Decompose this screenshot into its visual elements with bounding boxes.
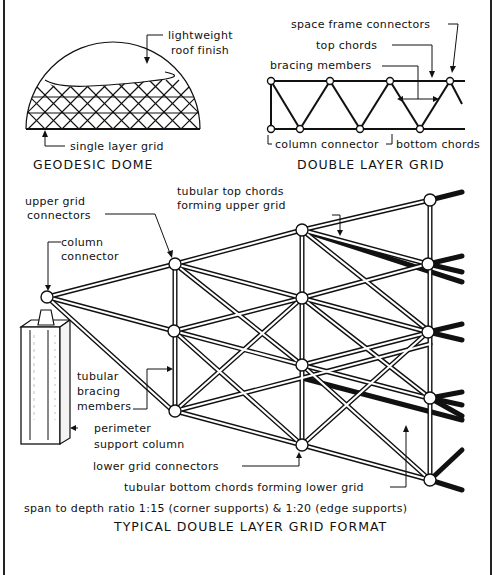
label-top-chords: top chords — [316, 39, 377, 52]
label-tubular-bottom-chords: tubular bottom chords forming lower grid — [124, 481, 364, 494]
perimeter-support-column — [21, 310, 70, 444]
label-bracing-members: bracing members — [270, 59, 372, 72]
caption-geodesic-dome: GEODESIC DOME — [33, 157, 153, 172]
double-layer-grid-diagram: lightweight roof finish single layer gri… — [0, 0, 498, 575]
label-roof-finish: roof finish — [171, 44, 229, 57]
figure-title: TYPICAL DOUBLE LAYER GRID FORMAT — [113, 519, 387, 534]
label-lower-grid-connectors: lower grid connectors — [93, 460, 219, 473]
label-upper-grid: upper grid — [25, 195, 85, 208]
label-space-frame-connectors: space frame connectors — [291, 18, 430, 31]
caption-double-layer-grid: DOUBLE LAYER GRID — [297, 157, 445, 172]
label-bottom-chords: bottom chords — [396, 138, 480, 151]
label-bracing: bracing — [77, 385, 120, 398]
label-tubular-top-chords: tubular top chords — [177, 185, 284, 198]
label-column-connector-2: connector — [61, 250, 119, 263]
span-depth-ratio-note: span to depth ratio 1:15 (corner support… — [24, 502, 407, 515]
label-column-connector: column connector — [275, 138, 379, 151]
label-single-layer-grid: single layer grid — [70, 140, 164, 153]
label-forming-upper-grid: forming upper grid — [177, 199, 286, 212]
label-column: column — [61, 236, 103, 249]
label-tubular: tubular — [77, 370, 119, 383]
label-lightweight: lightweight — [168, 29, 233, 42]
label-perimeter: perimeter — [94, 422, 151, 435]
label-connectors: connectors — [27, 209, 91, 222]
label-support-column: support column — [94, 438, 184, 451]
label-members: members — [77, 400, 131, 413]
